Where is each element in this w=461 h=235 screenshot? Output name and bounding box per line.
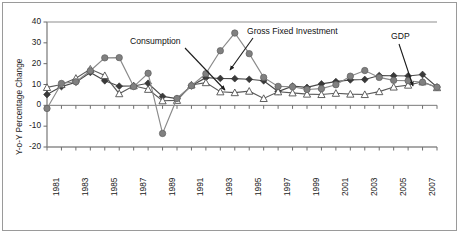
data-point-marker [260, 74, 266, 80]
data-point-marker [87, 68, 93, 74]
data-point-marker [159, 130, 165, 136]
data-point-marker [231, 75, 238, 82]
data-point-marker [318, 85, 324, 91]
data-point-marker [174, 95, 180, 101]
data-point-marker [202, 79, 209, 86]
data-point-marker [58, 80, 64, 86]
data-point-marker [102, 55, 108, 61]
series-consumption [43, 65, 440, 103]
data-point-marker [275, 83, 281, 89]
data-point-marker [217, 48, 223, 54]
data-point-marker [304, 86, 310, 92]
data-point-marker [246, 50, 252, 56]
data-point-marker [101, 72, 108, 79]
data-point-marker [145, 70, 151, 76]
data-point-marker [130, 83, 136, 89]
plot-canvas [0, 0, 461, 235]
data-point-marker [73, 79, 79, 85]
series-gdp [44, 69, 441, 102]
data-point-marker [361, 76, 368, 83]
data-point-marker [232, 30, 238, 36]
data-point-marker [188, 83, 194, 89]
data-point-marker [116, 83, 123, 90]
data-point-marker [217, 75, 224, 82]
data-point-marker [347, 73, 353, 79]
data-point-marker [44, 91, 51, 98]
data-point-marker [246, 76, 253, 83]
data-point-marker [390, 77, 396, 83]
series-gross-fixed-investment [44, 30, 440, 137]
data-point-marker [419, 79, 425, 85]
data-point-marker [116, 54, 122, 60]
data-point-marker [434, 84, 440, 90]
chart-figure: Y-o-Y Percentage Change -20-10010203040 … [0, 0, 461, 235]
data-point-marker [260, 95, 267, 102]
data-point-marker [362, 67, 368, 73]
data-point-marker [289, 84, 295, 90]
data-point-marker [203, 70, 209, 76]
data-point-marker [44, 105, 50, 111]
data-point-marker [376, 74, 382, 80]
data-point-marker [333, 82, 339, 88]
